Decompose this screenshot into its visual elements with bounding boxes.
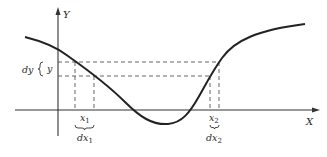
dx2-label: dx2: [206, 132, 222, 145]
dx2-brace-icon: [210, 125, 219, 129]
dx1-brace-icon: [75, 125, 94, 130]
x-axis-label: X: [305, 116, 314, 127]
y-axis-arrow-icon: [56, 7, 61, 15]
function-curve: [25, 24, 305, 124]
dy-annotation: dy y: [22, 62, 53, 76]
dx1-label: dx1: [77, 132, 93, 145]
y-axis: Y: [56, 7, 72, 136]
y-axis-label: Y: [63, 9, 71, 20]
x2-label: x2: [209, 112, 219, 125]
x-axis-arrow-icon: [312, 108, 320, 113]
y-label: y: [46, 63, 53, 74]
function-diagram: Y X dy y x1 dx1: [0, 0, 327, 157]
x1-annotation: x1 dx1: [75, 112, 94, 145]
x1-label: x1: [80, 112, 90, 125]
dy-label: dy: [22, 64, 34, 75]
x2-annotation: x2 dx2: [206, 112, 222, 145]
left-brace-icon: [38, 62, 43, 76]
